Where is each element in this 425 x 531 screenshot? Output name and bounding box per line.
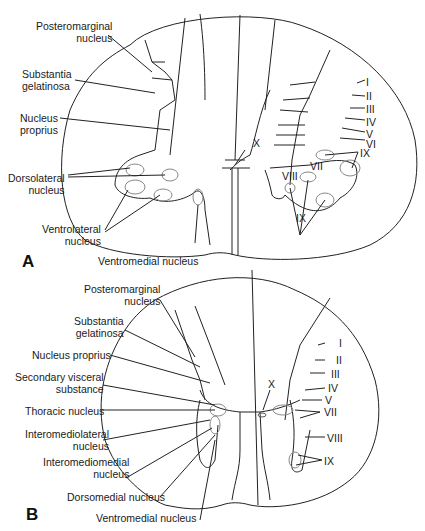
label-b-lamina-iii: III — [331, 368, 340, 380]
label-b-substantia-gelatinosa: Substantia gelatinosa — [74, 315, 124, 339]
panel-b-letter: B — [26, 505, 38, 525]
panel-b-drawing — [101, 270, 379, 520]
label-a-ventrolateral-nucleus: Ventrolateral nucleus — [42, 223, 101, 247]
label-b-dorsomedial-nucleus: Dorsomedial nucleus — [67, 491, 165, 503]
label-b-lamina-ii: II — [336, 354, 342, 366]
label-a-lamina-i: I — [366, 76, 369, 88]
label-a-lamina-ix-right: IX — [360, 147, 370, 159]
label-b-lamina-ix: IX — [324, 455, 334, 467]
label-a-posteromarginal: Posteromarginal nucleus — [36, 20, 112, 44]
label-b-interomediomedial-nucleus: Interomediomedial nucleus — [43, 456, 129, 480]
label-b-lamina-vii: VII — [324, 406, 337, 418]
label-b-lamina-i: I — [339, 337, 342, 349]
label-b-ventromedial-nucleus: Ventromedial nucleus — [96, 512, 196, 524]
label-a-lamina-iii: III — [366, 103, 375, 115]
label-a-nucleus-proprius: Nucleus proprius — [20, 112, 58, 136]
label-b-lamina-x: X — [268, 378, 275, 390]
label-a-lamina-iv: IV — [366, 116, 376, 128]
label-a-lamina-vii: VII — [310, 160, 323, 172]
panel-a-letter: A — [22, 252, 34, 272]
label-b-lamina-iv: IV — [328, 382, 338, 394]
label-b-lamina-v: V — [325, 394, 332, 406]
label-a-lamina-ii: II — [366, 90, 372, 102]
label-a-ventromedial-nucleus: Ventromedial nucleus — [98, 255, 198, 267]
label-a-lamina-viii: VIII — [282, 170, 298, 182]
label-b-lamina-viii: VIII — [327, 432, 343, 444]
label-b-posteromarginal: Posteromarginal nucleus — [84, 283, 160, 307]
label-a-lamina-x: X — [253, 137, 260, 149]
panel-a-drawing — [60, 14, 417, 259]
label-b-nucleus-proprius: Nucleus proprius — [32, 349, 111, 361]
label-a-lamina-ix-bottom: IX — [296, 212, 306, 224]
label-b-thoracic-nucleus: Thoracic nucleus — [25, 405, 104, 417]
label-a-substantia-gelatinosa: Substantia gelatinosa — [22, 68, 72, 92]
label-a-dorsolateral-nucleus: Dorsolateral nucleus — [8, 172, 65, 196]
label-b-secondary-visceral-substance: Secondary visceral substance — [15, 371, 104, 395]
label-b-interomediolateral-nucleus: Interomediolateral nucleus — [25, 428, 109, 452]
